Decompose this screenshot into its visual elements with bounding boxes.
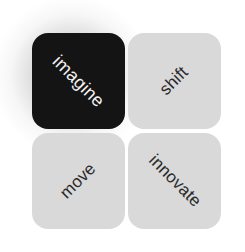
tile-innovate[interactable]: innovate (128, 133, 221, 229)
tile-imagine[interactable]: imagine (32, 33, 125, 129)
tile-move[interactable]: move (32, 133, 125, 229)
tile-label-imagine: imagine (48, 51, 108, 111)
tile-label-shift: shift (156, 63, 193, 100)
tile-label-move: move (56, 159, 100, 203)
tile-label-innovate: innovate (144, 151, 205, 212)
tile-shift[interactable]: shift (128, 33, 221, 129)
